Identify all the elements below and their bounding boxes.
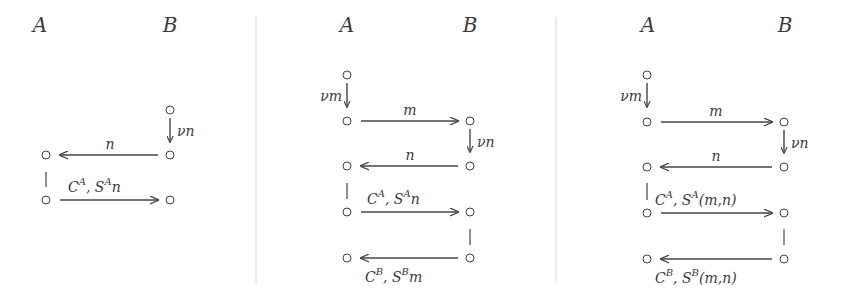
- party-a-header: A: [639, 13, 655, 37]
- fresh-nonce-label: νn: [477, 134, 495, 150]
- fresh-nonce-label: νn: [177, 123, 195, 139]
- state-node: [466, 208, 474, 216]
- party-a-header: A: [338, 13, 354, 37]
- state-node: [466, 117, 474, 125]
- state-node: [343, 162, 351, 170]
- message-label: m: [403, 102, 416, 118]
- message-label: CB, SB(m,n): [655, 267, 737, 286]
- fresh-nonce-label: νm: [320, 88, 342, 104]
- panel-2: A B νm m νn n CA, SAn: [320, 13, 494, 285]
- fresh-nonce-label: νm: [620, 88, 642, 104]
- state-node: [42, 196, 50, 204]
- message-label: n: [105, 136, 114, 152]
- panel-3: A B νm m νn n CA, SA(m,n): [620, 13, 808, 286]
- panel-1: A B νn n CA, SAn: [31, 13, 195, 204]
- state-node: [780, 255, 788, 263]
- state-node: [780, 163, 788, 171]
- message-label: n: [405, 147, 414, 163]
- state-node: [643, 209, 651, 217]
- protocol-diagram: A B νn n CA, SAn A B νm m: [0, 0, 845, 305]
- state-node: [780, 118, 788, 126]
- state-node: [466, 254, 474, 262]
- state-node: [643, 255, 651, 263]
- state-node: [643, 163, 651, 171]
- state-node: [166, 196, 174, 204]
- state-node: [780, 209, 788, 217]
- state-node: [343, 71, 351, 79]
- message-label: m: [709, 103, 722, 119]
- message-label: CB, SBm: [365, 266, 422, 285]
- state-node: [166, 106, 174, 114]
- party-b-header: B: [462, 13, 478, 37]
- message-label: CA, SAn: [367, 188, 420, 207]
- party-a-header: A: [31, 13, 47, 37]
- party-b-header: B: [777, 13, 793, 37]
- state-node: [343, 254, 351, 262]
- party-b-header: B: [162, 13, 178, 37]
- message-label: CA, SA(m,n): [655, 189, 736, 208]
- message-label: CA, SAn: [68, 176, 121, 195]
- state-node: [343, 208, 351, 216]
- state-node: [42, 151, 50, 159]
- state-node: [643, 118, 651, 126]
- state-node: [166, 151, 174, 159]
- message-label: n: [711, 148, 720, 164]
- fresh-nonce-label: νn: [791, 135, 809, 151]
- state-node: [343, 117, 351, 125]
- state-node: [466, 162, 474, 170]
- state-node: [643, 71, 651, 79]
